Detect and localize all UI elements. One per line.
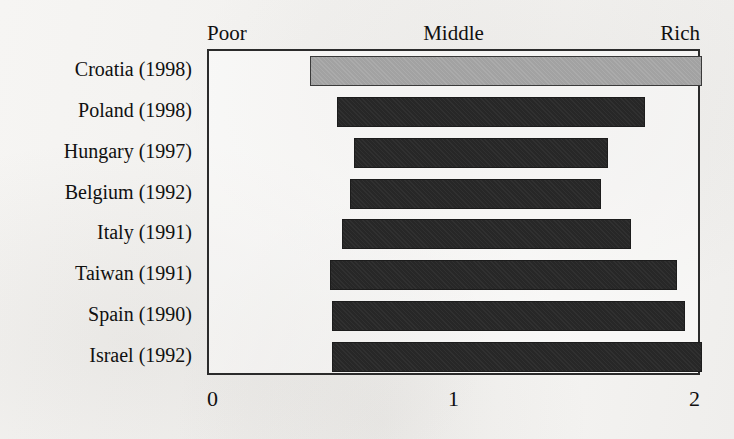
category-axis-labels: Croatia (1998)Poland (1998)Hungary (1997… xyxy=(0,49,200,375)
bars-container xyxy=(209,51,698,373)
range-bar xyxy=(337,97,645,127)
range-bar xyxy=(354,138,608,168)
category-label: Hungary (1997) xyxy=(64,131,192,171)
range-bar xyxy=(332,301,684,331)
value-axis-labels: 012 xyxy=(207,382,700,416)
value-axis-tick: 2 xyxy=(689,382,700,416)
category-label: Poland (1998) xyxy=(78,90,192,130)
category-label: Taiwan (1991) xyxy=(75,253,192,293)
value-axis-tick: 0 xyxy=(207,382,218,416)
category-label: Belgium (1992) xyxy=(65,172,192,212)
category-label: Croatia (1998) xyxy=(75,49,192,89)
category-label: Italy (1991) xyxy=(97,212,192,252)
band-label-middle: Middle xyxy=(423,18,484,48)
value-axis-tick: 1 xyxy=(448,382,459,416)
band-label-poor: Poor xyxy=(207,18,247,48)
range-bar xyxy=(330,260,678,290)
wealth-band-labels: Poor Middle Rich xyxy=(207,18,700,48)
category-label: Spain (1990) xyxy=(88,294,192,334)
range-bar-chart: Poor Middle Rich Croatia (1998)Poland (1… xyxy=(0,0,734,439)
range-bar xyxy=(332,342,702,372)
range-bar xyxy=(342,219,630,249)
category-label: Israel (1992) xyxy=(89,335,192,375)
range-bar xyxy=(310,56,702,86)
range-bar xyxy=(350,179,601,209)
plot-area xyxy=(207,49,700,375)
band-label-rich: Rich xyxy=(660,18,700,48)
